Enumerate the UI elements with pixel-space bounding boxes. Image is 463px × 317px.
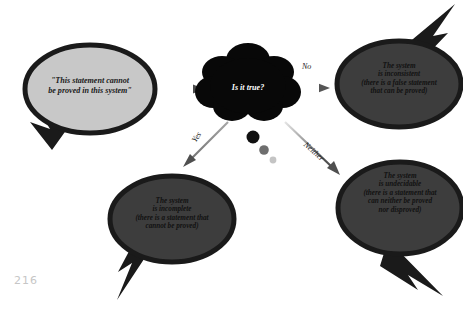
page-number: 216 xyxy=(14,274,38,287)
arrow-question-to-incomplete xyxy=(183,122,228,167)
arrow-question-to-undecidable xyxy=(285,122,340,175)
incomplete-bubble[interactable] xyxy=(110,176,234,300)
undecidable-bubble-body xyxy=(338,162,462,254)
arrow-question-to-inconsistent xyxy=(296,84,330,92)
premise-bubble[interactable] xyxy=(25,45,155,150)
thought-dot-medium xyxy=(259,145,269,155)
question-cloud-body xyxy=(195,43,301,121)
inconsistent-bubble-body xyxy=(337,41,461,127)
diagram-canvas xyxy=(0,0,463,317)
inconsistent-bubble[interactable] xyxy=(337,4,461,127)
premise-bubble-body xyxy=(25,45,155,133)
thought-dot-small xyxy=(270,157,277,164)
thought-dot-large xyxy=(247,131,260,144)
diagram-page: "This statement cannot be proved in this… xyxy=(0,0,463,317)
incomplete-bubble-body xyxy=(110,176,234,262)
undecidable-bubble[interactable] xyxy=(338,162,462,296)
question-cloud[interactable] xyxy=(195,43,301,163)
